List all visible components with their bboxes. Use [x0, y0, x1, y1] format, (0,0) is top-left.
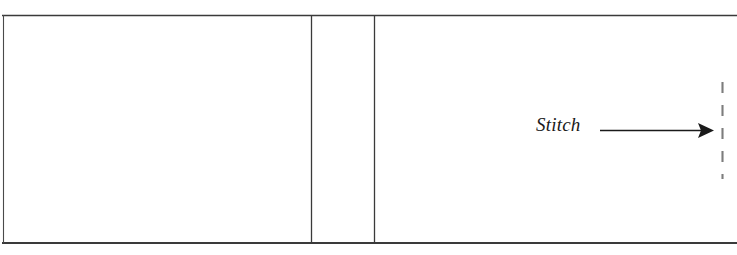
stitch-diagram: Stitch: [0, 0, 737, 255]
diagram-canvas: [0, 0, 737, 255]
